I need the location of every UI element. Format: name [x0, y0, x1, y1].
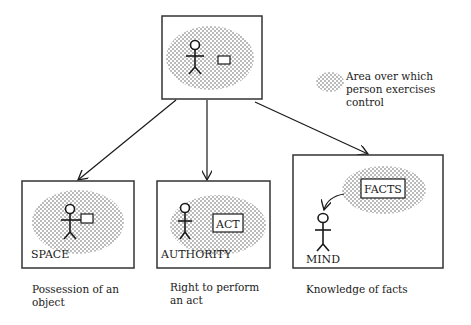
caption-space: Possession of an object [32, 283, 119, 309]
space-box: SPACE [22, 181, 134, 268]
control-area [32, 190, 124, 254]
object-icon [81, 214, 93, 223]
arrow-to-mind [255, 102, 368, 154]
top-box [162, 16, 262, 99]
mind-box: FACTS MIND [293, 155, 443, 268]
act-label: ACT [215, 218, 240, 231]
control-area [166, 26, 254, 90]
caption-authority: Right to perform an act [170, 281, 259, 307]
mind-label: MIND [306, 253, 340, 266]
arrow-to-space [78, 100, 176, 180]
legend-text: Area over which person exercises control [346, 70, 435, 109]
diagram-canvas: SPACE ACT AUTHORITY FACTS MIND [0, 0, 471, 325]
legend-stipple-icon [316, 72, 344, 92]
authority-box: ACT AUTHORITY [157, 181, 270, 268]
facts-label: FACTS [364, 183, 402, 196]
object-icon [218, 56, 230, 64]
caption-mind: Knowledge of facts [306, 283, 408, 296]
authority-label: AUTHORITY [160, 248, 232, 261]
space-label: SPACE [31, 248, 69, 261]
